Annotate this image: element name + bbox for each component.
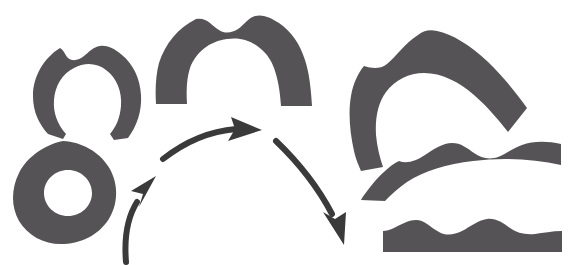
- figure-canvas: [0, 0, 577, 265]
- shape-transformation-diagram: [0, 0, 577, 265]
